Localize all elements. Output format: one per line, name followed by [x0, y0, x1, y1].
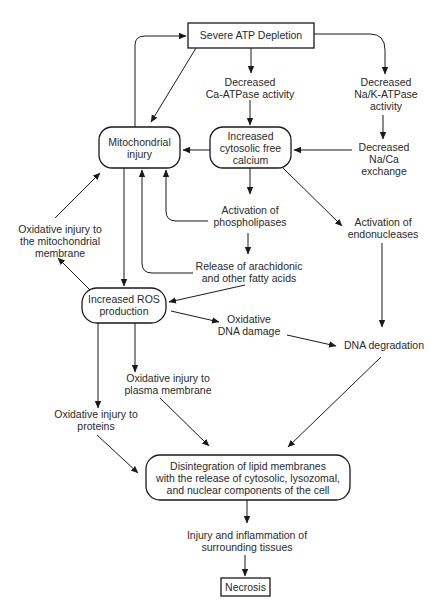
node-label-line: Oxidative injury to: [54, 408, 138, 420]
edge-atp-to-mito: [151, 48, 196, 122]
node-label-line: with the release of cytosolic, lysozomal…: [155, 472, 340, 484]
node-label-line: Decreased: [359, 141, 410, 153]
node-label: Necrosis: [225, 581, 266, 593]
node-label-line: proteins: [77, 420, 114, 432]
edge-ox-mito-to-mito: [55, 173, 100, 218]
node-oxidative-dna-damage: Oxidative DNA damage: [218, 313, 281, 337]
edge-ox-plasma-to-disintegration: [160, 398, 209, 446]
edge-dna-deg-to-disintegration: [288, 357, 381, 447]
node-increased-ros-production: Increased ROS production: [82, 288, 166, 323]
node-label-line: DNA degradation: [344, 339, 424, 351]
node-label-line: Decreased: [361, 76, 412, 88]
node-label-line: exchange: [361, 165, 407, 177]
node-label-line: injury: [127, 148, 153, 160]
edge-calcium-to-endonucleases: [283, 168, 342, 226]
node-label-line: Decreased: [225, 76, 276, 88]
node-release-arachidonic: Release of arachidonic and other fatty a…: [196, 260, 303, 284]
node-label-line: Disintegration of lipid membranes: [170, 460, 326, 472]
node-oxidative-injury-mito-membrane: Oxidative injury to the mitochondrial me…: [18, 223, 102, 259]
node-activation-endonucleases: Activation of endonucleases: [348, 216, 419, 240]
node-label-line: DNA damage: [218, 325, 281, 337]
node-label-line: Oxidative injury to: [126, 372, 210, 384]
node-increased-cytosolic-calcium: Increased cytosolic free calcium: [210, 127, 291, 168]
node-label-line: surrounding tissues: [201, 541, 292, 553]
edge-ox-proteins-to-disintegration: [97, 435, 138, 473]
edge-ox-dna-to-dna-deg: [287, 335, 336, 346]
node-activation-phospholipases: Activation of phospholipases: [214, 204, 287, 228]
node-label-line: calcium: [233, 154, 269, 166]
edge-ros-to-ox-dna: [171, 311, 219, 322]
node-label-line: Increased ROS: [88, 293, 160, 305]
node-label-line: Oxidative: [227, 313, 271, 325]
node-label-line: production: [99, 305, 148, 317]
node-label-line: Mitochondrial: [108, 136, 170, 148]
node-dna-degradation: DNA degradation: [344, 339, 424, 351]
node-label-line: activity: [370, 100, 403, 112]
node-decreased-ca-atpase: Decreased Ca-ATPase activity: [206, 76, 295, 100]
edge-atp-to-nak-atpase: [314, 34, 385, 74]
node-decreased-nak-atpase: Decreased Na/K-ATPase activity: [354, 76, 418, 112]
node-label-line: Activation of: [221, 204, 278, 216]
node-oxidative-injury-proteins: Oxidative injury to proteins: [54, 408, 138, 432]
node-disintegration-lipid-membranes: Disintegration of lipid membranes with t…: [146, 455, 350, 500]
edge-mito-to-atp: [135, 36, 186, 127]
node-label-line: Injury and inflammation of: [187, 529, 307, 541]
node-label-line: plasma membrane: [125, 384, 212, 396]
node-oxidative-injury-plasma-membrane: Oxidative injury to plasma membrane: [125, 372, 212, 396]
edge-arachidonic-to-ros: [169, 285, 245, 302]
node-label-line: cytosolic free: [220, 142, 281, 154]
edge-ros-to-ox-mito: [58, 258, 90, 290]
node-label-line: and other fatty acids: [202, 272, 297, 284]
node-severe-atp-depletion: Severe ATP Depletion: [188, 23, 314, 48]
node-necrosis: Necrosis: [221, 578, 270, 596]
node-label-line: Activation of: [354, 216, 411, 228]
node-label-line: endonucleases: [348, 228, 419, 240]
node-label-line: phospholipases: [214, 216, 287, 228]
node-injury-inflammation: Injury and inflammation of surrounding t…: [187, 529, 307, 553]
node-label-line: Increased: [227, 130, 273, 142]
node-label-line: Na/Ca: [369, 153, 399, 165]
node-label-line: and nuclear components of the cell: [167, 484, 330, 496]
node-decreased-naca-exchange: Decreased Na/Ca exchange: [359, 141, 410, 177]
node-label-line: Release of arachidonic: [196, 260, 303, 272]
node-label-line: Ca-ATPase activity: [206, 88, 295, 100]
node-label-line: the mitochondrial: [20, 235, 100, 247]
node-label-line: Na/K-ATPase: [354, 88, 418, 100]
necrosis-pathway-diagram: Severe ATP Depletion Decreased Ca-ATPase…: [0, 0, 442, 602]
node-label-line: membrane: [35, 247, 85, 259]
edge-phospholipases-to-mito: [166, 170, 208, 221]
node-label-line: Oxidative injury to: [18, 223, 102, 235]
node-label: Severe ATP Depletion: [200, 29, 302, 41]
node-mitochondrial-injury: Mitochondrial injury: [99, 127, 180, 168]
